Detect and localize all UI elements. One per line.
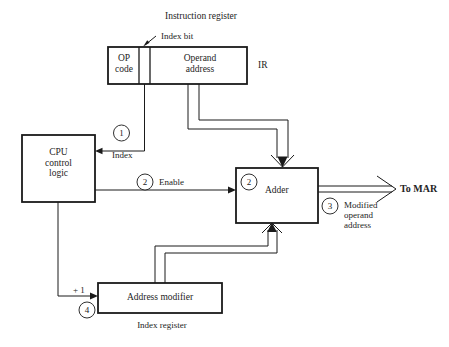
- adder-label: Adder: [265, 185, 289, 196]
- index-bit-pointer-arrow: [143, 36, 156, 47]
- to-mar-label: To MAR: [400, 183, 437, 194]
- enable-label: Enable: [159, 177, 184, 187]
- path-operand-to-adder: [188, 84, 294, 168]
- cpu-control-logic-text: CPU control logic: [45, 147, 72, 178]
- operand-address-label: Operand address: [155, 53, 245, 74]
- instruction-register-title: Instruction register: [126, 11, 276, 22]
- cpu-control-logic-label: CPU control logic: [24, 147, 93, 179]
- marker-2-enable-label: 2: [137, 177, 154, 187]
- address-modifier-label: Address modifier: [98, 292, 222, 303]
- modified-operand-address-text: Modified operand address: [344, 200, 378, 230]
- path-index-to-cpu: [95, 84, 145, 154]
- operand-address-text: Operand address: [184, 53, 217, 74]
- figure-block-diagram: Instruction register Index bit OP code O…: [0, 0, 449, 347]
- ir-label: IR: [258, 60, 268, 71]
- path-address-modifier-to-adder: [155, 223, 282, 284]
- index-bit-label: Index bit: [161, 31, 193, 41]
- marker-2-adder-label: 2: [241, 177, 258, 187]
- marker-4-label: 4: [79, 305, 96, 315]
- modified-operand-address-label: Modified operand address: [344, 200, 378, 230]
- path-enable-cpu-to-adder: [95, 186, 236, 193]
- op-code-label: OP code: [110, 53, 138, 74]
- marker-1-label: 1: [113, 128, 130, 138]
- index-register-caption: Index register: [100, 320, 224, 330]
- index-label: Index: [112, 150, 133, 160]
- marker-3-label: 3: [322, 201, 339, 211]
- plus-one-label: + 1: [73, 285, 85, 295]
- op-code-text: OP code: [115, 53, 133, 74]
